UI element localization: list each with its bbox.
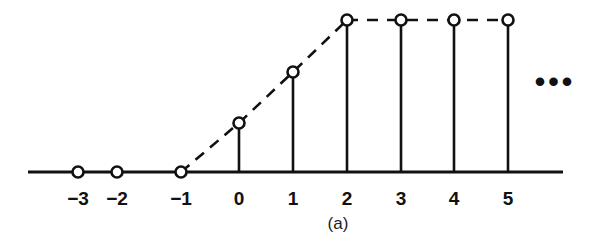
sample-marker-2 bbox=[342, 15, 353, 26]
stem-plot-canvas bbox=[0, 0, 591, 250]
sample-marker-minus2 bbox=[112, 167, 123, 178]
envelope-ramp-dashed bbox=[181, 20, 347, 172]
tick-label-minus2: −2 bbox=[106, 188, 128, 210]
tick-label-1: 1 bbox=[288, 188, 299, 210]
tick-label-minus3: −3 bbox=[67, 188, 89, 210]
figure-caption: (a) bbox=[328, 214, 349, 234]
sample-marker-4 bbox=[449, 15, 460, 26]
tick-label-3: 3 bbox=[396, 188, 407, 210]
sample-marker-1 bbox=[288, 67, 299, 78]
sample-marker-0 bbox=[234, 118, 245, 129]
tick-label-minus1: −1 bbox=[170, 188, 192, 210]
sample-marker-3 bbox=[396, 15, 407, 26]
sample-marker-5 bbox=[503, 15, 514, 26]
discrete-signal-figure: −3 −2 −1 0 1 2 3 4 5 ••• (a) bbox=[0, 0, 591, 250]
tick-label-5: 5 bbox=[503, 188, 514, 210]
tick-label-0: 0 bbox=[234, 188, 245, 210]
tick-label-2: 2 bbox=[342, 188, 353, 210]
tick-label-4: 4 bbox=[449, 188, 460, 210]
sample-marker-minus1 bbox=[176, 167, 187, 178]
sample-marker-minus3 bbox=[73, 167, 84, 178]
ellipsis-icon: ••• bbox=[535, 67, 576, 97]
